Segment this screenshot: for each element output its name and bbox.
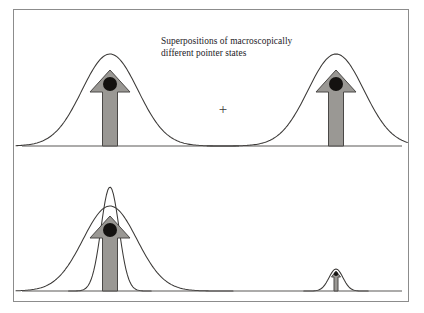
top-panel-graphics bbox=[14, 10, 410, 158]
particle-dot-left-pointer-arrow bbox=[103, 77, 117, 91]
curve-left-wavepacket bbox=[16, 54, 239, 146]
particle-dot-right-reduced-arrow bbox=[334, 272, 338, 276]
curve-left-wide-wavepacket bbox=[16, 206, 233, 291]
figure-frame: Superpositions of macroscopically differ… bbox=[13, 9, 409, 302]
top-panel-caption: Superpositions of macroscopically differ… bbox=[161, 35, 351, 59]
plus-operator: + bbox=[214, 100, 232, 118]
top-panel: Superpositions of macroscopically differ… bbox=[14, 10, 410, 158]
bottom-panel-graphics bbox=[14, 158, 410, 303]
particle-dot-left-pointer-arrow bbox=[103, 223, 117, 237]
particle-dot-right-pointer-arrow bbox=[329, 77, 343, 91]
bottom-panel: Hitting one particle of the pointer redu… bbox=[14, 158, 410, 303]
curve-right-wavepacket bbox=[207, 54, 407, 146]
figure-canvas: Superpositions of macroscopically differ… bbox=[0, 0, 424, 313]
